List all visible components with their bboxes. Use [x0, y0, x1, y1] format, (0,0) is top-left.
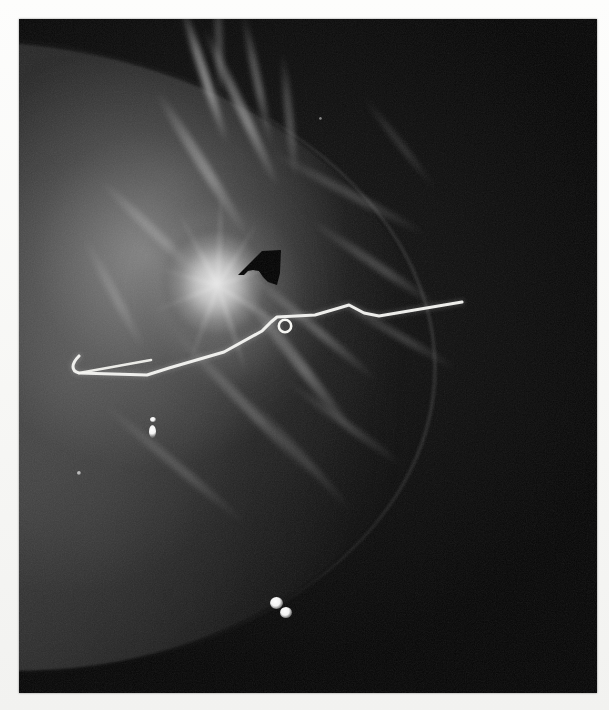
- mammogram-figure: [0, 0, 609, 710]
- black-arrow-marker: [238, 250, 281, 285]
- arrow-head-shape: [238, 250, 281, 285]
- arrow-marker-layer: [19, 19, 597, 693]
- radiograph-plate: [19, 19, 597, 693]
